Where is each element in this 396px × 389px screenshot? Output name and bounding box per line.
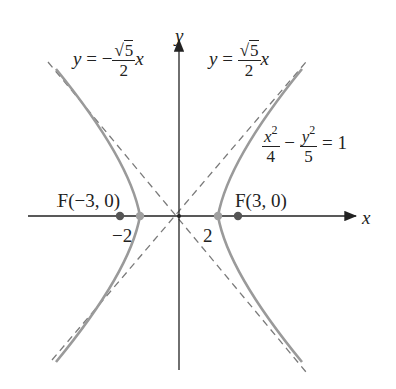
focus-left-point (116, 212, 124, 220)
vertex-left-point (136, 212, 144, 220)
focus-left-label: FF(−3, 0) (57, 191, 120, 210)
vertex-left-label: −2 (112, 226, 132, 245)
y-axis-label: y (175, 26, 183, 45)
focus-right-point (234, 212, 242, 220)
vertex-right-label: 2 (203, 226, 213, 245)
asymptote-right-label: y = √52x (209, 42, 269, 79)
sqrt5-over-2: √52 (238, 42, 261, 79)
origin-point (177, 214, 181, 218)
x-axis-label: x (362, 208, 370, 227)
sqrt5-over-2: √52 (112, 42, 135, 79)
focus-right-label: F(3, 0) (235, 191, 287, 210)
hyperbola-equation: x24 − y25 = 1 (262, 124, 347, 165)
asymptote-left-label: y = −√52x (73, 42, 144, 79)
vertex-right-point (214, 212, 222, 220)
